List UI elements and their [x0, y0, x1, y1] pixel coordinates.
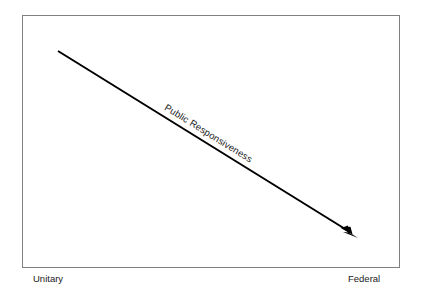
axis-caption-unitary: Unitary [33, 274, 63, 284]
diagram-root: Public Responsiveness Unitary Federal [0, 0, 422, 303]
axis-caption-federal: Federal [348, 274, 380, 284]
